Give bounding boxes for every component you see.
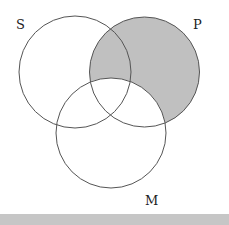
shaded-region-p-minus-m [90,17,200,127]
label-p: P [193,17,202,32]
venn-diagram: S P M [0,0,229,225]
venn-svg: S P M [0,0,229,225]
bottom-band [0,214,229,225]
label-m: M [145,193,158,208]
label-s: S [16,17,25,32]
